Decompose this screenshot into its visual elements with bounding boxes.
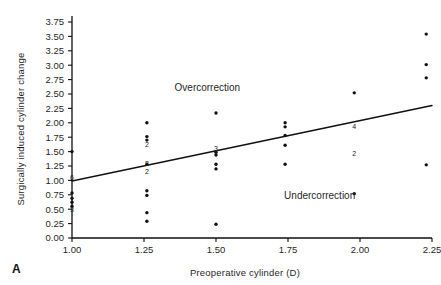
svg-text:3.25: 3.25 [46, 45, 65, 56]
svg-text:1.25: 1.25 [135, 244, 154, 255]
svg-text:0.25: 0.25 [46, 218, 65, 229]
svg-text:3.75: 3.75 [46, 16, 65, 27]
y-axis-ticks: 0.000.250.500.751.001.251.501.752.002.25… [46, 16, 73, 243]
x-axis-title: Preoperative cylinder (D) [190, 267, 300, 278]
svg-text:1.00: 1.00 [46, 175, 65, 186]
svg-text:3.00: 3.00 [46, 60, 65, 71]
svg-text:0.50: 0.50 [46, 204, 65, 215]
scatter-plot-figure: 0.000.250.500.751.001.251.501.752.002.25… [0, 0, 441, 285]
svg-text:1.75: 1.75 [46, 132, 65, 143]
svg-text:Undercorrection: Undercorrection [284, 190, 355, 201]
svg-text:2.00: 2.00 [351, 244, 370, 255]
svg-text:0.00: 0.00 [46, 232, 65, 243]
svg-text:1.75: 1.75 [279, 244, 298, 255]
regression-line [72, 106, 432, 181]
svg-text:3.50: 3.50 [46, 31, 65, 42]
svg-text:4: 4 [352, 123, 356, 130]
svg-text:2.75: 2.75 [46, 74, 65, 85]
x-axis-ticks: 1.001.251.501.752.002.25 [63, 238, 441, 255]
x-axis-title-wrap: Preoperative cylinder (D) [75, 262, 415, 280]
svg-text:2: 2 [145, 141, 149, 148]
plot-canvas: 0.000.250.500.751.001.251.501.752.002.25… [0, 0, 441, 285]
svg-text:3: 3 [70, 206, 74, 213]
svg-text:0.75: 0.75 [46, 189, 65, 200]
svg-text:1.25: 1.25 [46, 160, 65, 171]
region-annotations: OvercorrectionUndercorrection [175, 82, 356, 202]
axes [72, 16, 432, 238]
svg-text:2: 2 [145, 168, 149, 175]
y-axis-title-wrap: Surgically induced cylinder change [10, 14, 28, 244]
svg-text:2.25: 2.25 [423, 244, 441, 255]
svg-text:2.25: 2.25 [46, 103, 65, 114]
svg-text:8: 8 [145, 160, 149, 167]
svg-text:6: 6 [70, 174, 74, 181]
svg-text:1.50: 1.50 [46, 146, 65, 157]
svg-text:3: 3 [214, 145, 218, 152]
svg-text:1.50: 1.50 [207, 244, 226, 255]
data-points [70, 32, 428, 225]
svg-text:1.00: 1.00 [63, 244, 82, 255]
svg-text:2.00: 2.00 [46, 117, 65, 128]
svg-text:Overcorrection: Overcorrection [175, 82, 241, 93]
svg-text:2: 2 [352, 150, 356, 157]
y-axis-title: Surgically induced cylinder change [15, 52, 26, 205]
panel-letter: A [12, 262, 21, 276]
svg-text:2.50: 2.50 [46, 88, 65, 99]
